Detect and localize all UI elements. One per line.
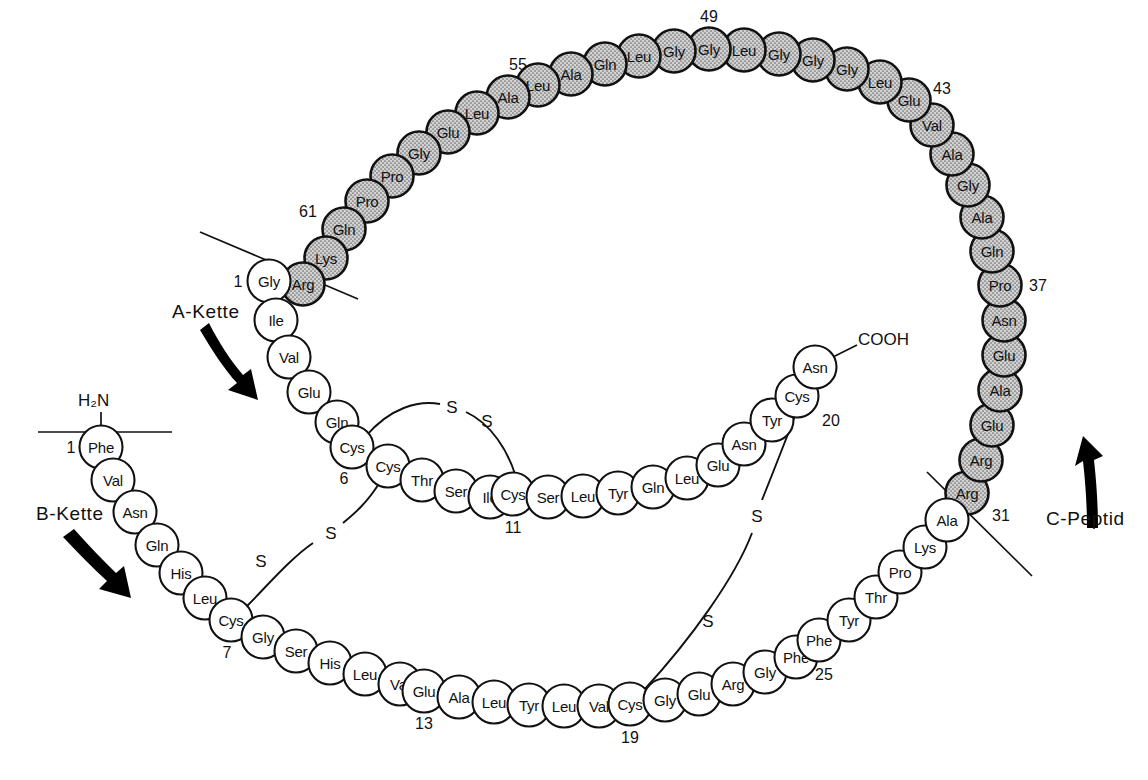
residue-label: Gln — [642, 479, 665, 496]
residue-number-7: 7 — [223, 644, 232, 661]
residue-number-37: 37 — [1029, 277, 1047, 294]
residue-label: Leu — [571, 488, 595, 505]
residue-label: Gly — [802, 52, 825, 69]
residue-number-6: 6 — [340, 470, 349, 487]
residue-label: Gly — [768, 46, 791, 63]
residue-label: Glu — [413, 683, 436, 700]
residue-label: Pro — [889, 564, 912, 581]
residue-label: Cys — [339, 439, 364, 456]
residue-number-1: 1 — [67, 439, 76, 456]
residue-label: Gln — [594, 56, 617, 73]
residue-number-49: 49 — [700, 8, 718, 25]
residue-label: Gln — [146, 537, 169, 554]
residue-number-13: 13 — [415, 715, 433, 732]
residue-label: Ala — [941, 146, 963, 163]
residue-b-30: Ala — [926, 499, 969, 542]
residue-label: Val — [589, 698, 609, 715]
residue-label: Val — [279, 349, 299, 366]
residue-label: Gln — [333, 221, 356, 238]
residue-number-25: 25 — [815, 666, 833, 683]
residue-label: Pro — [989, 277, 1012, 294]
c-terminus-label: COOH — [858, 330, 909, 349]
c-terminus-group: COOH — [833, 330, 909, 358]
residue-label: Lys — [315, 250, 337, 267]
residue-label: Pro — [381, 168, 404, 185]
residue-label: Glu — [707, 457, 730, 474]
residue-label: Leu — [868, 74, 892, 91]
a-chain-label: A-Kette — [172, 301, 240, 322]
sulfur-label: S — [255, 552, 266, 571]
residue-label: Gly — [957, 177, 980, 194]
residue-label: Lys — [914, 539, 936, 556]
residue-number-43: 43 — [933, 80, 951, 97]
residue-label: Arg — [956, 485, 979, 502]
residue-label: His — [170, 565, 191, 582]
residue-label: Leu — [353, 666, 377, 683]
residue-label: Asn — [991, 312, 1016, 329]
residue-label: Tyr — [762, 412, 782, 429]
residue-label: Ala — [560, 66, 582, 83]
residue-label: Thr — [411, 472, 433, 489]
residue-label: Gly — [754, 664, 777, 681]
residue-label: Leu — [675, 470, 699, 487]
a-chain: Gly1IleValGluGlnCys6CysThrSerIleCys11Ser… — [234, 260, 840, 536]
sulfur-label: S — [751, 507, 762, 526]
residue-label: Asn — [122, 504, 147, 521]
residue-label: Ser — [537, 489, 560, 506]
residue-label: Ala — [448, 689, 470, 706]
residue-label: Thr — [865, 589, 887, 606]
residue-label: Val — [103, 472, 123, 489]
residue-label: Cys — [375, 458, 400, 475]
sulfur-label: S — [702, 612, 713, 631]
disulfide-bond-a7-b7: S S — [246, 482, 380, 607]
residue-label: Phe — [806, 632, 832, 649]
residue-label: Leu — [193, 590, 217, 607]
b-chain-label: B-Kette — [36, 503, 104, 524]
residue-label: Cys — [500, 486, 525, 503]
residue-number-11: 11 — [505, 519, 522, 536]
residue-label: Leu — [465, 105, 489, 122]
residue-label: Tyr — [608, 485, 628, 502]
sulfur-label: S — [325, 524, 336, 543]
proinsulin-diagram: S S S S S S H₂N COOH — [0, 0, 1148, 780]
residue-label: Ala — [936, 512, 958, 529]
residue-label: Leu — [552, 698, 576, 715]
residue-label: Phe — [88, 439, 114, 456]
residue-label: Ser — [445, 483, 468, 500]
residue-label: Ala — [497, 89, 519, 106]
residue-label: Leu — [732, 42, 756, 59]
residue-label: Tyr — [839, 612, 859, 629]
residue-label: Tyr — [519, 697, 539, 714]
residue-number-1: 1 — [234, 273, 243, 290]
residue-label: Glu — [688, 686, 711, 703]
residue-label: Cys — [784, 388, 809, 405]
residue-label: Ile — [268, 312, 283, 329]
residue-label: Leu — [482, 694, 506, 711]
c-peptide-label: C-Peptid — [1046, 508, 1125, 529]
residue-label: Glu — [981, 417, 1004, 434]
residue-number-61: 61 — [299, 203, 317, 220]
residue-label: Glu — [298, 384, 321, 401]
residue-label: Arg — [292, 276, 315, 293]
residue-number-19: 19 — [621, 729, 639, 746]
residue-number-20: 20 — [822, 412, 840, 429]
residue-label: Arg — [722, 676, 745, 693]
residue-a-21: Asn — [794, 346, 837, 389]
residue-label: Asn — [802, 359, 827, 376]
residue-label: Cys — [218, 612, 243, 629]
residue-label: Gly — [252, 629, 275, 646]
residue-number-55: 55 — [509, 56, 527, 73]
residue-label: Val — [922, 117, 942, 134]
residue-label: Gly — [698, 41, 721, 58]
residue-label: Gly — [663, 43, 686, 60]
residue-label: Gly — [836, 61, 859, 78]
diagram-svg: S S S S S S H₂N COOH — [0, 0, 1148, 780]
residue-label: His — [319, 655, 340, 672]
residue-label: Glu — [993, 347, 1016, 364]
residue-label: Pro — [356, 193, 379, 210]
residue-label: Ala — [989, 382, 1011, 399]
residue-label: Ser — [285, 643, 308, 660]
residue-label: Gly — [258, 273, 281, 290]
residue-label: Cys — [617, 696, 642, 713]
residue-label: Glu — [898, 92, 921, 109]
